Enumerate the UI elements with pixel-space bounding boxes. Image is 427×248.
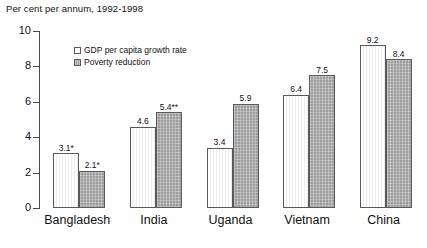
bar: 8.4 xyxy=(386,59,412,208)
bar: 2.1* xyxy=(79,171,105,208)
bar-value-label: 3.4 xyxy=(214,138,226,147)
y-axis-tick-labels: 0246810 xyxy=(0,0,31,248)
bar: 5.9 xyxy=(233,104,259,208)
y-axis-tick-label: 2 xyxy=(5,167,31,178)
bar: 7.5 xyxy=(309,75,335,208)
bar-value-label: 4.6 xyxy=(137,117,149,126)
bar-value-label: 3.1* xyxy=(59,144,74,153)
bar-group: 9.28.4 xyxy=(360,31,412,208)
bar-value-label: 7.5 xyxy=(316,66,328,75)
bar-value-label: 8.4 xyxy=(393,50,405,59)
y-axis-tick xyxy=(33,66,39,67)
bar-chart: Per cent per annum, 1992-1998 0246810 3.… xyxy=(0,0,427,248)
y-axis-tick xyxy=(33,173,39,174)
x-axis-category-label: India xyxy=(116,214,193,227)
y-axis-tick xyxy=(33,137,39,138)
x-axis-category-label: Vietnam xyxy=(269,214,346,227)
bar: 3.4 xyxy=(207,148,233,208)
y-axis-tick-label: 6 xyxy=(5,96,31,107)
y-axis-tick-label: 0 xyxy=(5,202,31,213)
bar: 4.6 xyxy=(130,127,156,208)
chart-legend: GDP per capita growth rate Poverty reduc… xyxy=(74,45,187,69)
legend-item-poverty: Poverty reduction xyxy=(74,57,187,68)
bar: 6.4 xyxy=(283,95,309,208)
bar-group: 3.45.9 xyxy=(207,31,259,208)
bar-value-label: 5.9 xyxy=(240,94,252,103)
y-axis-tick xyxy=(33,208,39,209)
bar-value-label: 6.4 xyxy=(290,85,302,94)
bar-value-label: 2.1* xyxy=(85,161,100,170)
legend-swatch-icon xyxy=(74,59,81,66)
legend-item-gdp: GDP per capita growth rate xyxy=(74,45,187,56)
y-axis-tick xyxy=(33,31,39,32)
x-axis-category-label: China xyxy=(345,214,422,227)
bar: 5.4** xyxy=(156,112,182,208)
legend-item-label: Poverty reduction xyxy=(84,58,150,67)
bar-value-label: 5.4** xyxy=(160,103,178,112)
y-axis-tick-label: 4 xyxy=(5,131,31,142)
legend-item-label: GDP per capita growth rate xyxy=(84,46,187,55)
y-axis-tick-label: 8 xyxy=(5,60,31,71)
y-axis-tick xyxy=(33,102,39,103)
bar: 3.1* xyxy=(53,153,79,208)
x-axis-category-label: Uganda xyxy=(192,214,269,227)
legend-swatch-icon xyxy=(74,47,81,54)
bar: 9.2 xyxy=(360,45,386,208)
y-axis-tick-label: 10 xyxy=(5,25,31,36)
x-axis-category-label: Bangladesh xyxy=(39,214,116,227)
bar-group: 6.47.5 xyxy=(283,31,335,208)
bar-value-label: 9.2 xyxy=(367,36,379,45)
